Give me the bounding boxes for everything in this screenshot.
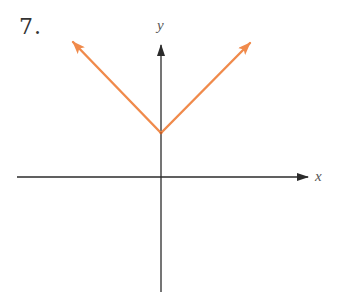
graph-right-branch (161, 43, 250, 133)
graph-vertex (160, 132, 163, 135)
graph-left-branch (73, 42, 161, 133)
plot-area (0, 0, 342, 292)
graph-figure: 7. y x (0, 0, 342, 292)
